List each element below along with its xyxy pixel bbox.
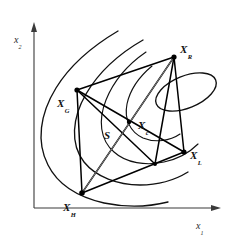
simplex-edges-group	[77, 57, 184, 193]
contour-outer-1	[41, 31, 168, 206]
label-reflection-sub: R	[188, 53, 192, 60]
contour-innermost-ellipse	[150, 65, 221, 119]
figure-canvas	[0, 0, 234, 242]
vertex-dot-centroid[interactable]	[127, 120, 131, 124]
edge-L-to-H	[82, 152, 184, 193]
x-axis-label: x1	[196, 216, 203, 234]
label-best-point: XL	[190, 146, 201, 165]
label-reflection-point: XR	[180, 40, 192, 59]
y-axis-label: x2	[14, 30, 21, 48]
label-best-sub: L	[198, 159, 202, 166]
label-centroid-sub: c	[146, 129, 149, 136]
y-axis-arrow-icon	[31, 22, 37, 32]
label-second-worst-point: XG	[57, 94, 69, 113]
vertex-dot-L[interactable]	[181, 149, 186, 154]
label-worst-base: X	[63, 201, 70, 213]
edge-H-to-G	[77, 90, 82, 193]
x-axis-arrow-icon	[211, 205, 221, 211]
label-centroid-point: Xc	[138, 116, 148, 135]
label-centroid-base: X	[138, 119, 145, 131]
vertex-dot-midlow[interactable]	[153, 162, 157, 166]
vertex-dot-R[interactable]	[171, 54, 176, 59]
label-best-base: X	[190, 149, 197, 161]
edge-G-to-R	[77, 57, 174, 90]
vertex-markers-group	[74, 54, 186, 195]
vertex-dot-H[interactable]	[79, 190, 85, 196]
edge-R-to-L	[174, 57, 184, 152]
figure-container: x2 x1 XR XG Xc XL XH S	[0, 0, 234, 242]
search-direction-line	[82, 57, 174, 193]
label-worst-sub: H	[71, 211, 76, 218]
contour-curves-group	[41, 31, 222, 206]
label-second-worst-sub: G	[65, 107, 70, 114]
label-worst-point: XH	[63, 198, 75, 217]
label-second-worst-base: X	[57, 97, 64, 109]
contour-inner-4	[126, 66, 180, 141]
vertex-dot-G[interactable]	[74, 87, 79, 92]
label-search-direction: S	[104, 129, 110, 141]
label-reflection-base: X	[180, 43, 187, 55]
